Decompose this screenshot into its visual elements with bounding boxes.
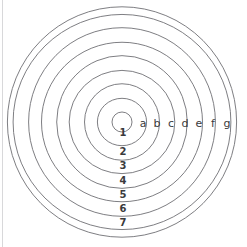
diagram-canvas: abcdefg 1234567 — [0, 0, 247, 247]
ring-number-label-5: 5 — [120, 190, 127, 200]
ring-letter-label-g: g — [224, 118, 231, 129]
ring-number-label-3: 3 — [120, 161, 127, 171]
ring-number-label-6: 6 — [120, 204, 127, 214]
ring-letter-label-f: f — [211, 118, 215, 129]
ring-number-label-2: 2 — [120, 147, 127, 157]
ring-number-label-4: 4 — [120, 176, 127, 186]
ring-letter-label-c: c — [168, 118, 174, 129]
ring-letter-label-e: e — [196, 118, 203, 129]
ring-letter-label-a: a — [140, 118, 147, 129]
ring-number-label-7: 7 — [120, 218, 127, 228]
ring-letter-label-d: d — [182, 118, 189, 129]
ring-number-label-1: 1 — [120, 128, 127, 138]
ring-letter-label-b: b — [154, 118, 161, 129]
